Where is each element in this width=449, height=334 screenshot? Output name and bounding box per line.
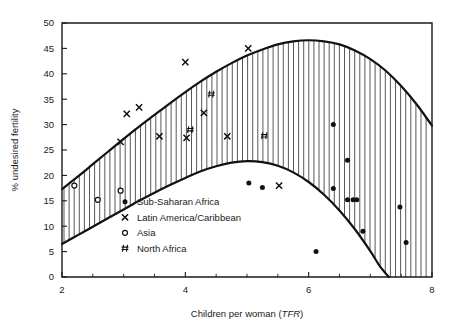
data-point xyxy=(95,197,100,202)
y-tick-label: 30 xyxy=(43,119,54,130)
legend-marker-open-circle xyxy=(123,230,128,235)
data-point xyxy=(260,185,265,190)
legend-marker-hash xyxy=(122,245,129,252)
data-point xyxy=(360,229,365,234)
data-point xyxy=(182,59,188,65)
y-tick-label: 15 xyxy=(43,195,54,206)
y-tick-label: 5 xyxy=(49,246,54,257)
data-point xyxy=(187,126,194,133)
x-tick-label: 2 xyxy=(59,284,64,295)
y-tick-label: 25 xyxy=(43,144,54,155)
data-point xyxy=(124,111,130,117)
data-point xyxy=(404,240,409,245)
data-point xyxy=(331,122,336,127)
data-point xyxy=(397,204,402,209)
data-point xyxy=(314,249,319,254)
y-tick-label: 50 xyxy=(43,17,54,28)
data-point xyxy=(276,182,282,188)
data-point xyxy=(261,132,268,139)
legend-label: Sub-Saharan Africa xyxy=(137,196,220,207)
data-point xyxy=(246,181,251,186)
data-point xyxy=(331,186,336,191)
undesired-fertility-scatter-chart: 051015202530354045502468 Children per wo… xyxy=(0,0,449,334)
y-tick-label: 0 xyxy=(49,271,54,282)
data-point xyxy=(245,45,251,51)
legend-marker-x xyxy=(122,214,128,220)
legend-label: Asia xyxy=(137,227,156,238)
y-tick-label: 35 xyxy=(43,94,54,105)
upper-bound-curve xyxy=(62,40,432,189)
data-point xyxy=(136,104,142,110)
data-point xyxy=(354,197,359,202)
x-tick-label: 8 xyxy=(429,284,434,295)
axis-ticks xyxy=(62,23,432,277)
x-axis-title: Children per woman (TFR) xyxy=(191,308,303,319)
data-point xyxy=(345,158,350,163)
data-point xyxy=(208,91,215,98)
legend-label: North Africa xyxy=(137,243,187,254)
y-tick-label: 20 xyxy=(43,170,54,181)
data-markers-layer xyxy=(72,45,409,254)
data-point xyxy=(118,188,123,193)
data-point xyxy=(156,133,162,139)
series-sub-saharan-africa xyxy=(246,122,408,254)
y-tick-label: 45 xyxy=(43,43,54,54)
chart-legend: Sub-Saharan AfricaLatin America/Caribbea… xyxy=(122,196,241,254)
x-tick-label: 4 xyxy=(183,284,188,295)
y-tick-label: 40 xyxy=(43,68,54,79)
y-tick-label: 10 xyxy=(43,221,54,232)
legend-label: Latin America/Caribbean xyxy=(137,212,241,223)
x-tick-label: 6 xyxy=(306,284,311,295)
y-axis-title: % undesired fertility xyxy=(9,108,20,191)
legend-marker-filled-dot xyxy=(123,199,128,204)
data-point xyxy=(72,183,77,188)
data-point xyxy=(345,197,350,202)
axis-frame xyxy=(62,23,432,277)
chart-figure: 051015202530354045502468 Children per wo… xyxy=(0,0,449,334)
